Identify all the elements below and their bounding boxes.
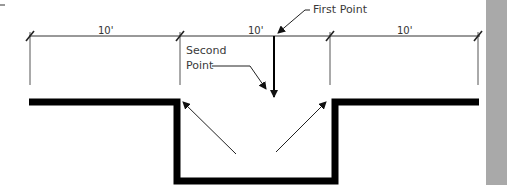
wall-profile	[29, 102, 479, 181]
dimension-label-middle: 10'	[248, 25, 263, 36]
second-point-label-line1: Second	[186, 44, 226, 57]
dimension-label-right: 10'	[397, 25, 412, 36]
first-point-label: First Point	[313, 3, 367, 16]
diagonal-arrow-left	[183, 102, 236, 154]
second-point-leader	[212, 66, 266, 89]
first-point-leader	[278, 10, 310, 33]
second-point-label-line2: Point	[186, 59, 213, 72]
side-bar	[486, 0, 507, 185]
diagonal-arrow-right	[276, 102, 326, 152]
dimension-label-left: 10'	[98, 25, 113, 36]
